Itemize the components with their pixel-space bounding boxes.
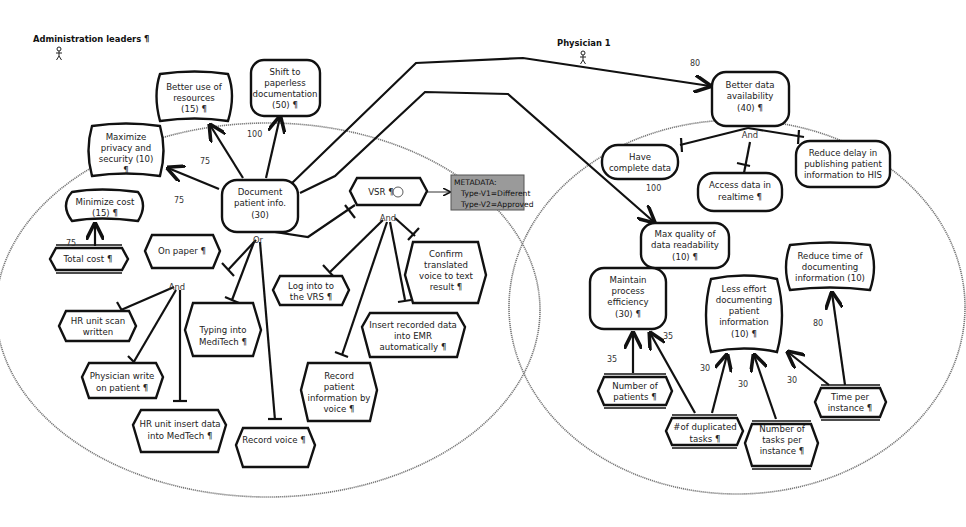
svg-text:30: 30 [787,376,797,385]
goal-shift-to-paperless[interactable]: Shift to paperless documentation (50) ¶ [251,60,320,116]
svg-text:Time per: Time per [830,392,870,402]
goal-better-use-of-resources[interactable]: Better use of resources (15) ¶ [157,72,233,122]
svg-text:Access data in: Access data in [709,180,771,190]
svg-text:efficiency: efficiency [607,297,648,307]
svg-text:Document: Document [238,187,283,197]
svg-text:Confirm: Confirm [429,249,463,259]
svg-text:Number of: Number of [759,424,806,434]
goal-better-data-availability[interactable]: Better data availability (40) ¶ [712,72,789,126]
svg-text:(10) ¶: (10) ¶ [672,252,698,262]
actor-physician[interactable]: Physician 1 [557,38,611,64]
svg-text:¶: ¶ [123,165,128,175]
task-on-paper[interactable]: On paper ¶ [145,235,220,268]
indicator-duplicated-tasks[interactable]: #of duplicated tasks ¶ [666,415,743,448]
svg-text:security (10): security (10) [99,154,154,164]
svg-text:on patient ¶: on patient ¶ [96,383,148,393]
goal-maintain-process-efficiency[interactable]: Maintain process efficiency (30) ¶ [590,268,666,329]
svg-text:Total cost ¶: Total cost ¶ [63,254,113,264]
svg-text:data readability: data readability [651,240,719,250]
svg-text:process: process [611,286,645,296]
svg-text:Maximize: Maximize [106,132,147,142]
task-vsr[interactable]: VSR ¶ [350,178,427,205]
svg-text:Better use of: Better use of [166,82,223,92]
svg-text:into EMR: into EMR [394,331,432,341]
svg-text:30: 30 [738,380,748,389]
svg-text:HR unit scan: HR unit scan [71,316,125,326]
svg-text:tasks ¶: tasks ¶ [690,434,721,444]
svg-text:On paper ¶: On paper ¶ [158,246,206,256]
svg-text:tasks per: tasks per [762,435,802,445]
svg-text:Have: Have [629,152,651,162]
task-insert-recorded-data[interactable]: Insert recorded data into EMR automatica… [362,313,465,357]
svg-text:(30) ¶: (30) ¶ [615,309,641,319]
svg-text:Maintain: Maintain [610,275,647,285]
task-record-patient-info-by-voice[interactable]: Record patient information by voice ¶ [301,363,377,421]
or-decomposition-label: Or [253,235,264,245]
svg-text:Max quality of: Max quality of [655,229,717,239]
svg-text:documenting: documenting [716,295,773,305]
svg-text:#of duplicated: #of duplicated [673,422,736,432]
svg-text:Record voice ¶: Record voice ¶ [242,435,305,445]
svg-text:Type-V2=Approved: Type-V2=Approved [460,200,534,209]
svg-text:voice ¶: voice ¶ [324,404,355,414]
svg-text:Type-V1=Different: Type-V1=Different [460,189,530,198]
goal-minimize-cost[interactable]: Minimize cost (15) ¶ [66,190,143,222]
goal-access-data-realtime[interactable]: Access data in realtime ¶ [698,173,782,211]
goal-reduce-delay-publishing[interactable]: Reduce delay in publishing patient infor… [796,141,890,187]
svg-text:privacy and: privacy and [101,143,151,153]
task-log-into-vrs[interactable]: Log into to the VRS ¶ [273,276,349,305]
svg-text:Record: Record [324,371,354,381]
svg-text:Typing into: Typing into [199,325,247,335]
svg-text:Reduce delay in: Reduce delay in [809,148,878,158]
goal-maximize-privacy[interactable]: Maximize privacy and security (10) ¶ [89,124,164,177]
task-hr-unit-scan-written[interactable]: HR unit scan written [59,311,136,341]
svg-text:patient: patient [324,382,355,392]
svg-text:(15) ¶: (15) ¶ [181,104,207,114]
svg-text:Physician write: Physician write [90,371,155,381]
metadata-box: METADATA: Type-V1=Different Type-V2=Appr… [451,175,534,210]
svg-text:instance ¶: instance ¶ [760,446,805,456]
task-typing-into-meditech[interactable]: Typing into MediTech ¶ [185,303,261,356]
indicator-total-cost[interactable]: Total cost ¶ [50,245,128,273]
svg-text:documentation: documentation [252,89,317,99]
svg-text:75: 75 [200,157,210,166]
svg-text:METADATA:: METADATA: [454,178,497,187]
svg-text:Better data: Better data [726,80,775,90]
actor-label: Physician 1 [557,38,611,48]
task-physician-write[interactable]: Physician write on patient ¶ [82,363,163,398]
svg-text:complete data: complete data [609,163,671,173]
person-icon [580,51,586,64]
svg-text:(10) ¶: (10) ¶ [731,329,757,339]
svg-text:35: 35 [607,355,617,364]
task-confirm-translated-voice[interactable]: Confirm translated voice to text result … [405,242,486,303]
task-record-voice[interactable]: Record voice ¶ [236,428,315,467]
goal-reduce-time-documenting[interactable]: Reduce time of documenting information (… [786,243,874,291]
svg-text:the VRS ¶: the VRS ¶ [290,292,332,302]
indicator-time-per-instance[interactable]: Time per instance ¶ [815,385,886,420]
svg-text:availability: availability [727,91,774,101]
svg-text:patient info.: patient info. [234,198,286,208]
svg-text:publishing patient: publishing patient [804,159,882,169]
goal-document-patient-info[interactable]: Document patient info. (30) [222,180,298,232]
svg-text:VSR ¶: VSR ¶ [368,187,394,197]
task-hr-unit-insert-data[interactable]: HR unit insert data into MedTech ¶ [133,410,226,452]
svg-text:75: 75 [174,196,184,205]
svg-text:(40) ¶: (40) ¶ [737,103,763,113]
indicator-tasks-per-instance[interactable]: Number of tasks per instance ¶ [745,421,818,469]
indicator-number-of-patients[interactable]: Number of patients ¶ [598,374,672,408]
svg-text:HR unit insert data: HR unit insert data [139,419,220,429]
svg-text:30: 30 [700,364,710,373]
svg-text:80: 80 [690,59,700,68]
actor-administration-leaders[interactable]: Administration leaders ¶ [33,34,149,60]
goal-less-effort-documenting[interactable]: Less effort documenting patient informat… [706,276,782,353]
svg-text:resources: resources [173,93,215,103]
goal-have-complete-data[interactable]: Have complete data [602,145,678,179]
svg-text:35: 35 [663,332,673,341]
svg-text:result ¶: result ¶ [430,282,463,292]
svg-text:automatically ¶: automatically ¶ [380,342,447,352]
goal-max-quality-data-readability[interactable]: Max quality of data readability (10) ¶ [641,223,729,268]
svg-text:Reduce time of: Reduce time of [798,251,864,261]
svg-text:Minimize cost: Minimize cost [76,197,135,207]
svg-text:Shift to: Shift to [270,67,301,77]
svg-text:75: 75 [66,239,76,248]
